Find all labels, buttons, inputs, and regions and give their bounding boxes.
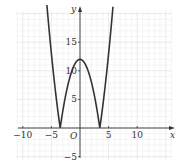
- y-tick-label: 5: [71, 94, 77, 104]
- y-tick-label: 15: [66, 37, 78, 47]
- x-tick-label: −10: [13, 130, 32, 140]
- y-axis-arrow-icon: [78, 6, 82, 12]
- y-tick-label: −5: [64, 152, 78, 162]
- x-tick-label: 10: [131, 130, 143, 140]
- x-axis-label: x: [170, 130, 175, 140]
- grid: [17, 11, 171, 160]
- y-axis-label: y: [70, 4, 77, 14]
- x-tick-label: 5: [106, 130, 112, 140]
- origin-label: O: [70, 131, 78, 141]
- x-tick-label: −5: [45, 130, 59, 140]
- function-graph: x y O −10−5510−551015: [0, 0, 187, 166]
- y-tick-label: 10: [66, 66, 78, 76]
